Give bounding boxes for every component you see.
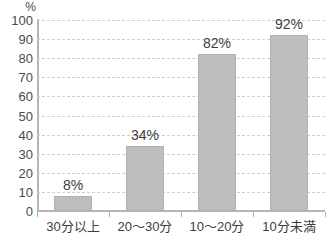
x-axis-tick-mark — [109, 212, 110, 217]
y-axis-tick-label: 30 — [0, 148, 33, 161]
bar — [54, 196, 92, 211]
x-axis-tick-mark — [325, 212, 326, 217]
y-axis-tick-label: 40 — [0, 129, 33, 142]
bar-value-label: 92% — [249, 17, 329, 32]
y-axis-tick-label: 90 — [0, 33, 33, 46]
bar-value-label: 82% — [177, 36, 257, 51]
x-axis-tick-mark — [37, 212, 38, 217]
y-axis-tick-label: 60 — [0, 90, 33, 103]
y-axis-tick-label: 10 — [0, 186, 33, 199]
x-axis-tick-mark — [181, 212, 182, 217]
bar-chart: % 1009080706050403020100 8%34%82%92% 30分… — [0, 0, 335, 248]
bar — [126, 146, 164, 211]
y-axis-tick-label: 20 — [0, 167, 33, 180]
bar — [270, 35, 308, 211]
y-axis-tick-label: 50 — [0, 110, 33, 123]
y-axis-tick-label: 80 — [0, 52, 33, 65]
bar-value-label: 34% — [105, 128, 185, 143]
y-axis-tick-label: 0 — [0, 205, 33, 218]
bar — [198, 54, 236, 211]
bar-value-label: 8% — [33, 178, 113, 193]
x-axis-tick-mark — [253, 212, 254, 217]
x-axis-category-label: 10分未満 — [239, 219, 335, 235]
y-axis-tick-label: 70 — [0, 71, 33, 84]
y-axis-tick-label: 100 — [0, 14, 33, 27]
